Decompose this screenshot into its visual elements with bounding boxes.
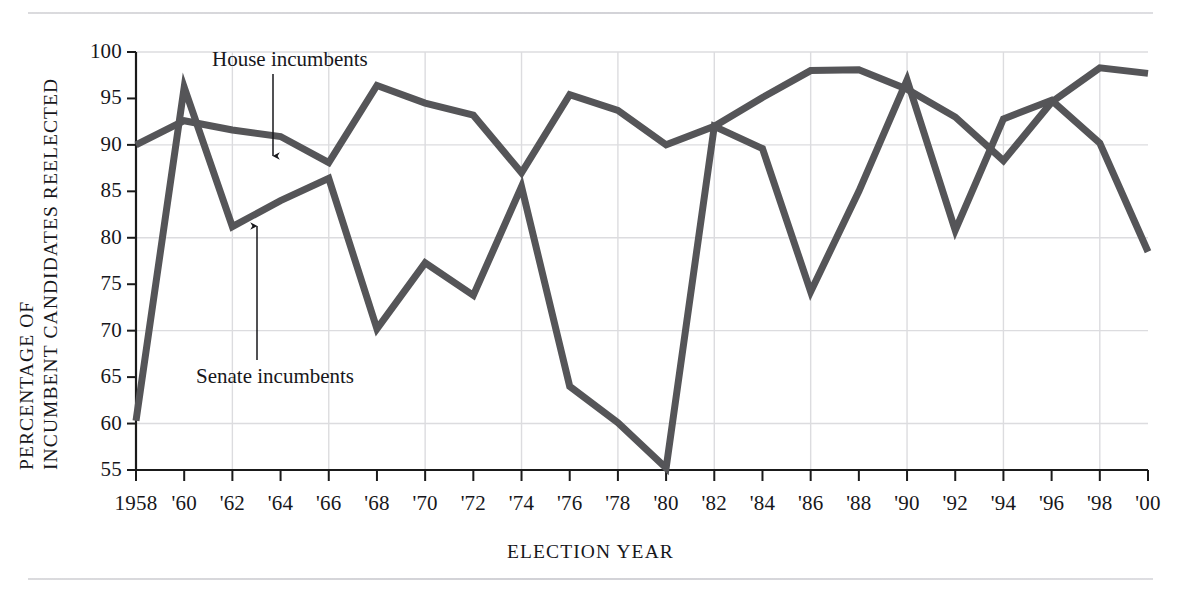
figure: 556065707580859095100 1958'60'62'64'66'6… <box>0 0 1181 595</box>
y-axis-tick-label: 85 <box>60 180 122 201</box>
y-axis-tick-label: 100 <box>60 41 122 62</box>
y-axis-tick-label: 80 <box>60 227 122 248</box>
data-series-layer <box>136 68 1148 468</box>
y-axis-title: PERCENTAGE OF INCUMBENT CANDIDATES REELE… <box>16 30 62 470</box>
y-axis-tick-label: 65 <box>60 366 122 387</box>
axes <box>136 52 1148 470</box>
senate-series-label: Senate incumbents <box>196 364 354 389</box>
y-axis-tick-label: 55 <box>60 459 122 480</box>
y-axis-tick-label: 95 <box>60 87 122 108</box>
y-axis-title-line2: INCUMBENT CANDIDATES REELECTED <box>40 30 62 470</box>
x-axis-tick-label: '00 <box>1108 493 1181 514</box>
y-axis-tick-label: 70 <box>60 320 122 341</box>
annotation-arrows <box>257 74 273 360</box>
series-line-house-incumbents <box>136 68 1148 173</box>
x-axis-title: ELECTION YEAR <box>0 541 1181 563</box>
x-axis-ticks <box>136 470 1148 481</box>
y-axis-tick-label: 60 <box>60 413 122 434</box>
y-axis-title-line1: PERCENTAGE OF <box>16 30 38 470</box>
house-series-label: House incumbents <box>212 47 368 72</box>
y-axis-tick-label: 75 <box>60 273 122 294</box>
y-axis-tick-label: 90 <box>60 134 122 155</box>
gridlines <box>136 52 1148 470</box>
